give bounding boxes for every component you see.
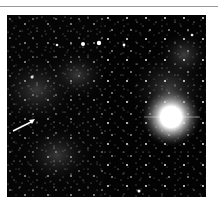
left-starfield	[7, 15, 104, 197]
top-rule	[0, 6, 218, 7]
astronomical-figure	[7, 15, 206, 197]
right-panel-image	[104, 15, 206, 197]
right-starfield	[104, 15, 206, 197]
left-panel-image	[7, 15, 104, 197]
